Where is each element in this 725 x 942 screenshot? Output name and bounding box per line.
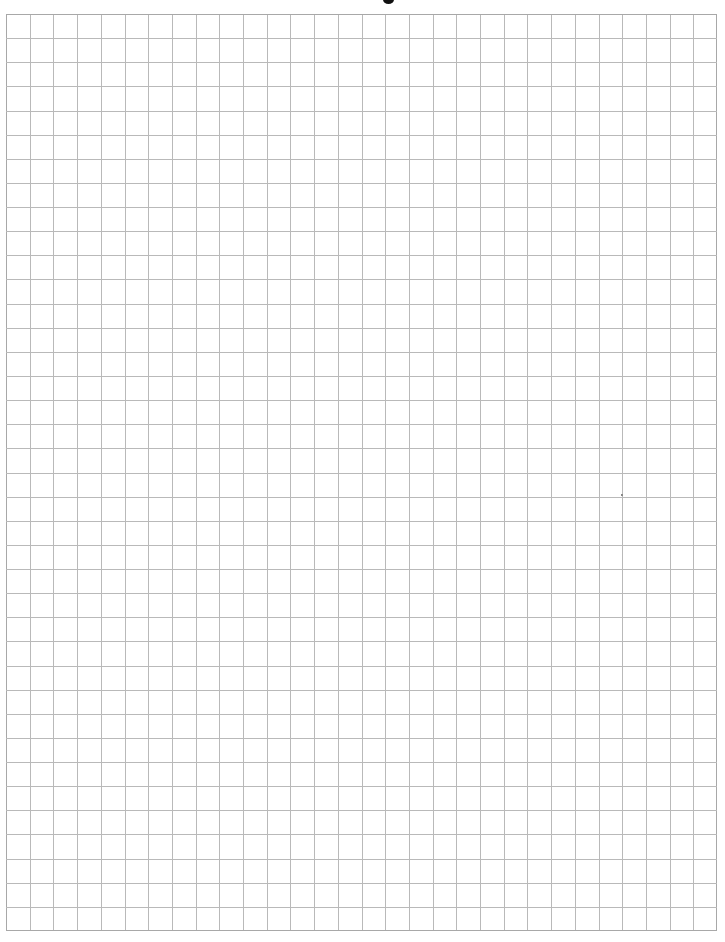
grid-line-horizontal [6,279,717,280]
grid-line-horizontal [6,231,717,232]
grid-line-horizontal [6,786,717,787]
grid-border-horizontal [6,14,717,15]
grid-line-horizontal [6,569,717,570]
grid-line-horizontal [6,617,717,618]
grid-line-horizontal [6,666,717,667]
grid-line-horizontal [6,111,717,112]
grid-line-horizontal [6,593,717,594]
grid-line-horizontal [6,473,717,474]
grid-line-horizontal [6,690,717,691]
grid-line-horizontal [6,641,717,642]
grid-line-horizontal [6,521,717,522]
grid-line-horizontal [6,545,717,546]
grid-line-horizontal [6,328,717,329]
grid-line-horizontal [6,834,717,835]
grid-line-horizontal [6,376,717,377]
grid-line-horizontal [6,183,717,184]
grid-line-horizontal [6,738,717,739]
grid-line-horizontal [6,859,717,860]
grid-line-horizontal [6,255,717,256]
grid-line-horizontal [6,400,717,401]
grid-line-horizontal [6,497,717,498]
grid-line-horizontal [6,159,717,160]
grid-line-horizontal [6,62,717,63]
grid-line-horizontal [6,135,717,136]
grid-line-horizontal [6,448,717,449]
grid-border-horizontal [6,930,717,931]
grid-line-horizontal [6,38,717,39]
grid-line-horizontal [6,352,717,353]
grid-line-horizontal [6,424,717,425]
grid-line-horizontal [6,304,717,305]
grid-line-horizontal [6,714,717,715]
grid-line-horizontal [6,810,717,811]
grid-line-horizontal [6,883,717,884]
grid-line-horizontal [6,86,717,87]
graph-paper-grid [6,14,717,931]
clipped-title-fragment [383,0,394,4]
grid-line-horizontal [6,907,717,908]
scan-speck [621,494,623,496]
grid-line-horizontal [6,207,717,208]
grid-line-horizontal [6,762,717,763]
